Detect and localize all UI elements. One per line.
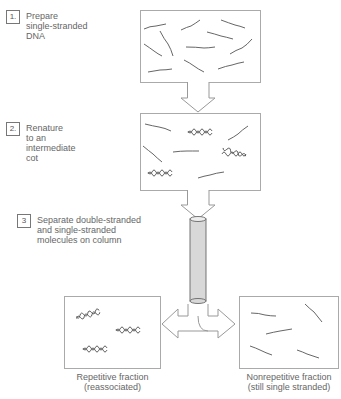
step-2-number: 2. bbox=[6, 122, 20, 136]
step-1-number: 1. bbox=[6, 10, 20, 24]
step-3-number: 3 bbox=[17, 214, 31, 228]
box-renatured-dna bbox=[141, 114, 261, 191]
box-repetitive-fraction bbox=[65, 297, 161, 369]
box-nonrepetitive-fraction bbox=[240, 297, 339, 369]
step-1-text: Prepare single-stranded DNA bbox=[26, 11, 88, 41]
arrow-down-1 bbox=[181, 82, 215, 112]
box-single-stranded-dna bbox=[141, 11, 261, 83]
caption-nonrepetitive: Nonrepetitive fraction (still single str… bbox=[239, 372, 339, 392]
separation-column bbox=[190, 217, 206, 304]
arrow-down-2 bbox=[181, 190, 215, 219]
step-2-text: Renature to an intermediate cot bbox=[26, 123, 76, 163]
step-3-text: Separate double-stranded and single-stra… bbox=[37, 215, 141, 245]
caption-repetitive: Repetitive fraction (reassociated) bbox=[64, 372, 161, 392]
dna-reassociation-diagram bbox=[0, 0, 341, 399]
